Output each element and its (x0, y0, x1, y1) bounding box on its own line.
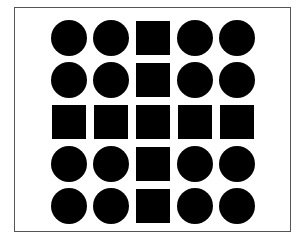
circle-shape (51, 188, 87, 224)
circle-shape (177, 62, 213, 98)
circle-shape (219, 146, 255, 182)
circle-shape (219, 62, 255, 98)
square-shape (220, 105, 254, 139)
square-shape (136, 21, 170, 55)
circle-shape (177, 146, 213, 182)
circle-shape (93, 62, 129, 98)
circle-shape (51, 62, 87, 98)
circle-shape (219, 188, 255, 224)
square-shape (136, 105, 170, 139)
square-shape (136, 189, 170, 223)
circle-shape (51, 146, 87, 182)
square-shape (52, 105, 86, 139)
circle-shape (93, 146, 129, 182)
square-shape (94, 105, 128, 139)
circle-shape (177, 20, 213, 56)
circle-shape (177, 188, 213, 224)
circle-shape (93, 20, 129, 56)
circle-shape (219, 20, 255, 56)
square-shape (178, 105, 212, 139)
circle-shape (51, 20, 87, 56)
square-shape (136, 147, 170, 181)
square-shape (136, 63, 170, 97)
shape-grid (0, 0, 299, 238)
circle-shape (93, 188, 129, 224)
